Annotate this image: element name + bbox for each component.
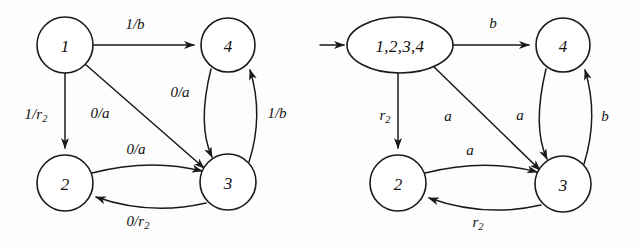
edge-label-1-to-2: 1/r2: [25, 106, 49, 124]
edge-label-3-to-2: r2: [472, 214, 484, 232]
edge-3-to-2: [96, 197, 206, 208]
edge-3-to-2: [429, 198, 541, 210]
edge-2-to-3: [425, 165, 537, 173]
node-2-label: 2: [394, 175, 403, 194]
node-3-label: 3: [223, 174, 233, 193]
state-diagram-figure: 1 4 2 3 1/b 1/r2 0/a 0/a 1/b 0/a 0/r2: [0, 0, 640, 247]
edge-4-to-3: [539, 69, 547, 159]
node-set-1234-label: 1,2,3,4: [376, 37, 425, 56]
left-automaton: 1 4 2 3 1/b 1/r2 0/a 0/a 1/b 0/a 0/r2: [25, 16, 287, 231]
edge-4-to-3: [204, 69, 212, 157]
edge-3-to-4: [249, 70, 257, 162]
node-1-label: 1: [61, 37, 70, 56]
edge-label-set-to-2: r2: [379, 107, 391, 125]
edge-2-to-3: [92, 165, 202, 173]
edge-label-set-to-3: a: [444, 108, 452, 124]
edge-label-set-to-4: b: [489, 15, 497, 31]
edge-3-to-4: [584, 70, 592, 164]
node-2-label: 2: [61, 175, 70, 194]
edge-label-3-to-2: 0/r2: [127, 213, 151, 231]
node-4-label: 4: [559, 37, 568, 56]
edge-label-1-to-3: 0/a: [90, 105, 109, 121]
edge-label-2-to-3: a: [466, 142, 474, 158]
edge-label-2-to-3: 0/a: [126, 141, 145, 157]
edge-label-3-to-4: b: [601, 108, 609, 124]
edge-label-1-to-4: 1/b: [125, 16, 145, 32]
edge-label-3-to-4: 1/b: [267, 105, 287, 121]
diagram-canvas: 1 4 2 3 1/b 1/r2 0/a 0/a 1/b 0/a 0/r2: [0, 0, 640, 247]
edge-label-4-to-3: a: [516, 107, 524, 123]
right-automaton: 1,2,3,4 4 2 3 b r2 a a b a r2: [320, 15, 609, 232]
node-4-label: 4: [224, 37, 233, 56]
edge-label-4-to-3: 0/a: [170, 84, 189, 100]
node-3-label: 3: [558, 176, 568, 195]
